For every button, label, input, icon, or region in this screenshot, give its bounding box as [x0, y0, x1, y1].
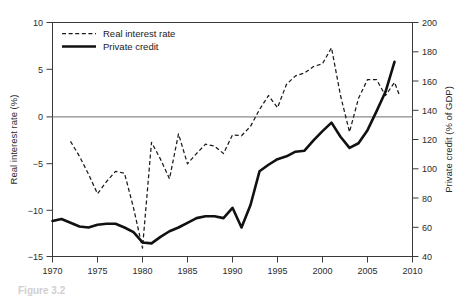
x-tick-label-1975: 1975 — [87, 266, 107, 276]
left-tick-label-neg15: −15 — [28, 252, 43, 262]
right-tick-label-120: 120 — [422, 135, 437, 145]
right-tick-label-40: 40 — [422, 252, 432, 262]
left-tick-label-neg5: −5 — [33, 159, 43, 169]
series-line-private-credit — [53, 62, 395, 244]
right-axis-title: Private credit (% of GDP) — [443, 86, 454, 193]
right-tick-label-100: 100 — [422, 164, 437, 174]
figure-caption: Figure 3.2 — [18, 285, 66, 296]
right-tick-label-160: 160 — [422, 77, 437, 87]
x-axis-ticks — [53, 257, 413, 263]
plot-frame — [53, 23, 413, 257]
x-tick-label-2000: 2000 — [312, 266, 332, 276]
legend-label-real-interest-rate: Real interest rate — [103, 28, 175, 39]
right-tick-label-200: 200 — [422, 18, 437, 28]
left-tick-label-5: 5 — [38, 65, 43, 75]
right-tick-label-80: 80 — [422, 194, 432, 204]
left-tick-label-neg10: −10 — [28, 206, 43, 216]
right-axis-ticks — [413, 23, 419, 257]
left-tick-label-0: 0 — [38, 112, 43, 122]
x-tick-label-2005: 2005 — [357, 266, 377, 276]
legend-label-private-credit: Private credit — [103, 41, 159, 52]
x-tick-label-1980: 1980 — [132, 266, 152, 276]
x-tick-label-1970: 1970 — [42, 266, 62, 276]
figure-container: 10 5 0 −5 −10 −15 200 180 160 140 120 10… — [0, 0, 461, 296]
x-tick-label-1990: 1990 — [222, 266, 242, 276]
left-axis-title: Real interest rate (%) — [8, 95, 19, 185]
right-tick-label-140: 140 — [422, 106, 437, 116]
chart-legend: Real interest rate Private credit — [62, 28, 175, 52]
left-tick-label-10: 10 — [33, 18, 43, 28]
right-tick-label-180: 180 — [422, 47, 437, 57]
x-tick-label-2010: 2010 — [402, 266, 422, 276]
right-tick-label-60: 60 — [422, 223, 432, 233]
dual-axis-line-chart: 10 5 0 −5 −10 −15 200 180 160 140 120 10… — [0, 0, 461, 296]
x-tick-label-1985: 1985 — [177, 266, 197, 276]
x-tick-label-1995: 1995 — [267, 266, 287, 276]
